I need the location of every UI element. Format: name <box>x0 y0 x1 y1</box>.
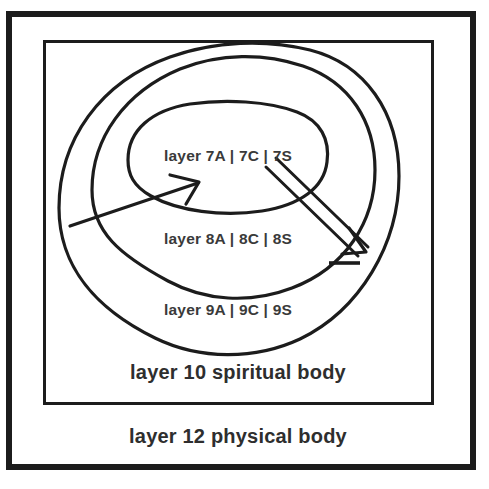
body-label-10: layer 10 spiritual body <box>130 361 346 383</box>
ring-label-8: layer 8A | 8C | 8S <box>164 230 292 247</box>
ring-label-7: layer 7A | 7C | 7S <box>164 147 292 164</box>
layer-diagram: layer 7A | 7C | 7S layer 8A | 8C | 8S la… <box>0 0 489 489</box>
diagram-canvas: layer 7A | 7C | 7S layer 8A | 8C | 8S la… <box>0 0 489 489</box>
ring-label-9: layer 9A | 9C | 9S <box>164 301 292 318</box>
body-label-12: layer 12 physical body <box>129 425 348 447</box>
